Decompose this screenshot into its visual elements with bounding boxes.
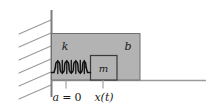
origin-label: a=0 bbox=[53, 91, 82, 104]
spring-label: k bbox=[62, 40, 69, 53]
origin-equals: = bbox=[62, 91, 71, 104]
mass-label: m bbox=[99, 63, 108, 74]
wall-hatching-group bbox=[19, 20, 51, 99]
origin-value: 0 bbox=[74, 91, 81, 104]
hatch-line-6 bbox=[19, 85, 51, 99]
spring-coil bbox=[52, 60, 91, 73]
hatch-line-3 bbox=[19, 46, 51, 60]
spring-coil-strokes bbox=[58, 60, 85, 73]
hatch-line-5 bbox=[19, 72, 51, 86]
displacement-label: x(t) bbox=[94, 91, 113, 104]
origin-symbol: a bbox=[53, 91, 60, 104]
damper-label: b bbox=[124, 40, 131, 53]
hatch-line-2 bbox=[19, 33, 51, 47]
mass-spring-damper-diagram: k m b a=0 x(t) bbox=[0, 0, 209, 109]
hatch-line-1 bbox=[19, 20, 51, 34]
diagram-canvas: k m b a=0 x(t) bbox=[0, 0, 209, 109]
hatch-line-4 bbox=[19, 59, 51, 73]
